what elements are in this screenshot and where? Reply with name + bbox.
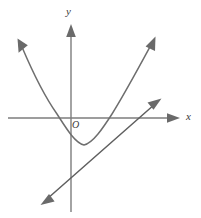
graph-figure: y x O: [0, 0, 201, 218]
parabola-curve: [22, 45, 151, 145]
y-axis-label: y: [66, 6, 71, 17]
x-axis-label: x: [186, 111, 191, 122]
y-axis-arrowhead-icon: [66, 24, 76, 37]
x-axis-arrowhead-icon: [167, 113, 180, 123]
coordinate-plane-svg: [0, 0, 201, 218]
parabola-right-arrowhead-icon: [146, 37, 156, 52]
origin-label: O: [72, 120, 79, 130]
line-lower-arrowhead-icon: [41, 194, 55, 205]
parabola-left-arrowhead-icon: [18, 39, 28, 53]
